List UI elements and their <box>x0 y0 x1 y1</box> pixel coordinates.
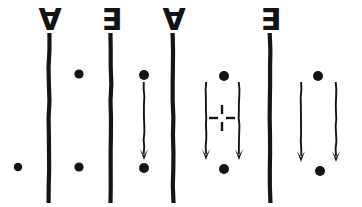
dot-col4-lower <box>315 166 325 176</box>
dot-col1-upper <box>74 69 83 78</box>
for-all-symbol: ∀ <box>38 2 62 37</box>
diagram-svg: ∀∃∀∃ <box>0 0 362 207</box>
separator-bar-4 <box>270 33 271 203</box>
separator-bar-2 <box>110 33 111 203</box>
quantifier-symbols-group: ∀∃∀∃ <box>38 2 281 37</box>
arrows-group <box>140 82 340 162</box>
arrow-col3-left <box>202 82 210 160</box>
dot-col2-upper <box>139 70 149 80</box>
dot-col3-lower <box>219 164 229 174</box>
separator-bars-group <box>49 33 271 203</box>
dot-col1-lower <box>74 162 83 171</box>
arrow-col4-left <box>297 82 305 162</box>
for-all-symbol: ∀ <box>162 2 186 37</box>
there-exists-symbol: ∃ <box>261 2 282 37</box>
arrow-col2-shaft <box>144 82 145 154</box>
arrow-col4-right <box>332 82 340 162</box>
dot-col0-lower <box>14 163 22 171</box>
arrow-col4-left-shaft <box>301 82 302 156</box>
dashed-cross-marker <box>209 105 235 131</box>
there-exists-symbol: ∃ <box>102 2 123 37</box>
arrow-col3-right <box>235 82 243 160</box>
figure-canvas: ∀∃∀∃ <box>0 0 362 207</box>
arrow-col3-left-shaft <box>206 82 207 154</box>
dot-col3-upper <box>219 71 229 81</box>
separator-bar-3 <box>173 33 174 203</box>
dot-col4-upper <box>313 71 323 81</box>
arrow-col3-right-shaft <box>239 82 240 154</box>
arrow-col4-right-shaft <box>336 82 337 156</box>
dot-col2-lower <box>139 163 149 173</box>
dots-group <box>14 69 325 176</box>
dashed-cross-group <box>209 105 235 131</box>
separator-bar-1 <box>49 33 50 203</box>
arrow-col2 <box>140 82 148 160</box>
